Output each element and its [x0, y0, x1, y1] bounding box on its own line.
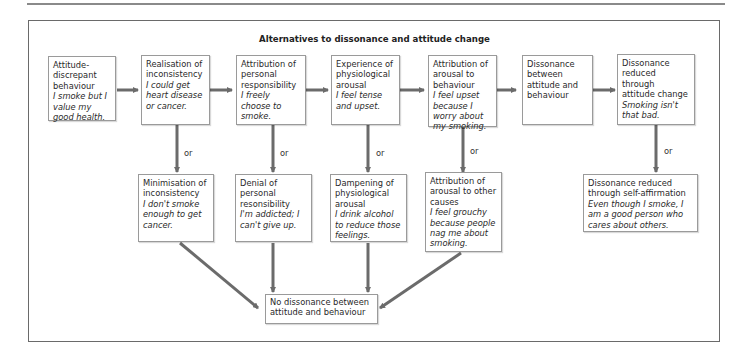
box-example: I drink alcohol to reduce those feelings… [335, 209, 402, 240]
box-attribution-arousal-behaviour: Attribution of arousal to behaviour I fe… [428, 55, 497, 127]
box-heading: Dampening of physiological arousal [335, 178, 402, 209]
box-minimisation-of-inconsistency: Minimisation of inconsistency I don't sm… [138, 174, 214, 242]
box-realisation-of-inconsistency: Realisation of inconsistency I could get… [141, 55, 210, 125]
or-label: or [470, 146, 479, 156]
box-attitude-discrepant-behaviour: Attitude-discrepant behaviour I smoke bu… [48, 56, 116, 121]
box-heading: Attribution of personal responsibility [241, 59, 301, 90]
box-example: Even though I smoke, I am a good person … [588, 199, 693, 230]
box-heading: Attribution of arousal to behaviour [433, 59, 492, 90]
box-heading: Attitude-discrepant behaviour [53, 60, 111, 91]
box-example: I don't smoke enough to get cancer. [143, 199, 209, 230]
box-example: Smoking isn't that bad. [622, 100, 690, 121]
box-example: I feel upset because I worry about my sm… [433, 90, 492, 132]
box-dampening-physiological-arousal: Dampening of physiological arousal I dri… [330, 174, 407, 242]
box-heading: Attribution of arousal to other causes [430, 176, 497, 207]
box-dissonance-reduced-self-affirmation: Dissonance reduced through self-affirmat… [583, 174, 698, 232]
box-example: I'm addicted; I can't give up. [240, 209, 307, 230]
box-example: I feel tense and upset. [336, 90, 395, 111]
box-example: I feel grouchy because people nag me abo… [430, 207, 497, 249]
box-heading: Dissonance between attitude and behaviou… [527, 59, 588, 101]
box-heading: Realisation of inconsistency [146, 59, 205, 80]
arrow-conv-1 [180, 243, 258, 308]
box-heading: Experience of physiological arousal [336, 59, 395, 90]
box-heading: Denial of personal resonsibility [240, 178, 307, 209]
box-heading: Minimisation of inconsistency [143, 178, 209, 199]
or-label: or [376, 148, 385, 158]
arrow-conv-4 [380, 253, 461, 308]
or-label: or [184, 148, 193, 158]
box-attribution-personal-responsibility: Attribution of personal responsibility I… [236, 55, 306, 125]
box-heading: Dissonance reduced through attitude chan… [622, 58, 690, 100]
box-experience-physiological-arousal: Experience of physiological arousal I fe… [331, 55, 400, 125]
box-example: I could get heart disease or cancer. [146, 80, 205, 111]
box-example: I smoke but I value my good health. [53, 91, 111, 122]
box-heading: No dissonance between attitude and behav… [270, 297, 373, 318]
box-no-dissonance: No dissonance between attitude and behav… [265, 294, 378, 324]
box-example: I freely choose to smoke. [241, 90, 301, 121]
or-label: or [280, 148, 289, 158]
box-heading: Dissonance reduced through self-affirmat… [588, 178, 693, 199]
or-label: or [664, 146, 673, 156]
box-denial-personal-responsibility: Denial of personal resonsibility I'm add… [235, 174, 312, 242]
box-dissonance-attitude-behaviour: Dissonance between attitude and behaviou… [522, 55, 593, 125]
box-dissonance-reduced-attitude-change: Dissonance reduced through attitude chan… [617, 54, 695, 125]
box-attribution-arousal-other-causes: Attribution of arousal to other causes I… [425, 172, 502, 252]
